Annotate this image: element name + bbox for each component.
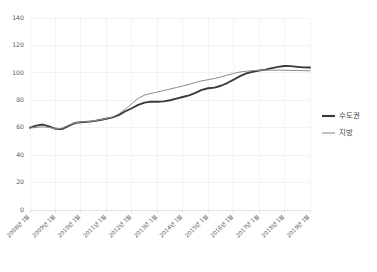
y-tick-label: 60 [16,123,24,130]
x-tick-label: 2010년 1월 [56,213,82,239]
x-tick-label: 2018년 1월 [259,213,285,239]
legend-label: 지방 [339,128,353,137]
y-tick-label: 0 [20,206,24,213]
x-tick-label: 2017년 1월 [234,213,260,239]
x-axis-tick-labels: 2008년 1월2009년 1월2010년 1월2011년 1월2012년 1월… [5,213,311,239]
y-tick-label: 80 [16,96,24,103]
x-tick-label: 2014년 1월 [158,213,184,239]
y-axis-tick-labels: 020406080100120140 [12,14,24,213]
x-tick-label: 2013년 1월 [132,213,158,239]
x-tick-label: 2012년 1월 [107,213,133,239]
y-tick-label: 20 [16,178,24,185]
x-tick-label: 2009년 1월 [30,213,56,239]
y-tick-label: 140 [12,14,24,21]
y-tick-label: 120 [12,41,24,48]
legend-item[interactable]: 지방 [322,128,353,137]
y-tick-label: 40 [16,151,24,158]
x-tick-label: 2019년 1월 [285,213,311,239]
x-tick-label: 2016년 1월 [208,213,234,239]
axis-layer [30,210,310,213]
legend-item[interactable]: 수도권 [322,111,360,120]
chart-canvas: 020406080100120140 2008년 1월2009년 1월2010년… [0,0,377,272]
legend-label: 수도권 [339,111,360,120]
x-tick-label: 2011년 1월 [81,213,107,239]
grid-layer [30,18,310,210]
y-tick-label: 100 [12,69,24,76]
chart-legend[interactable]: 수도권지방 [322,111,360,137]
x-tick-label: 2015년 1월 [183,213,209,239]
line-chart: 020406080100120140 2008년 1월2009년 1월2010년… [0,0,377,272]
x-tick-label: 2008년 1월 [5,213,31,239]
series-line-sudogwon [30,66,310,129]
series-layer [30,66,310,129]
